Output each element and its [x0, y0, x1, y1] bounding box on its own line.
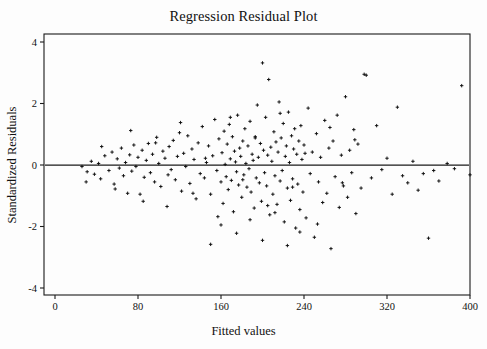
data-point [286, 244, 289, 247]
data-point [132, 143, 135, 146]
data-point [272, 130, 275, 133]
data-point [274, 140, 277, 143]
data-point [453, 167, 456, 170]
data-point [110, 150, 113, 153]
data-point [294, 226, 297, 229]
data-point [406, 181, 409, 184]
data-point [242, 173, 245, 176]
data-point [136, 156, 139, 159]
data-point [338, 206, 341, 209]
data-point [422, 172, 425, 175]
data-point [300, 158, 303, 161]
data-point [240, 196, 243, 199]
data-point [390, 193, 393, 196]
data-point [325, 192, 328, 195]
data-point [93, 173, 96, 176]
data-point [201, 125, 204, 128]
data-point [336, 113, 339, 116]
y-tick-label: -4 [28, 283, 37, 294]
x-axis-label: Fitted values [211, 324, 275, 338]
data-point [124, 161, 127, 164]
data-point [356, 142, 359, 145]
data-point [311, 150, 314, 153]
data-point [359, 186, 362, 189]
data-point [180, 189, 183, 192]
x-tick-label: 320 [379, 301, 395, 312]
data-point [275, 203, 278, 206]
data-point [141, 200, 144, 203]
data-point [299, 124, 302, 127]
data-point [120, 146, 123, 149]
data-point [309, 172, 312, 175]
data-point [301, 190, 304, 193]
data-point [401, 174, 404, 177]
data-point [103, 154, 106, 157]
data-point [411, 160, 414, 163]
data-point [321, 201, 324, 204]
data-point [143, 176, 146, 179]
data-point [298, 208, 301, 211]
data-point [228, 123, 231, 126]
data-point [155, 136, 158, 139]
data-point [323, 119, 326, 122]
data-point [287, 110, 290, 113]
data-point [128, 153, 131, 156]
data-point [145, 159, 148, 162]
data-point [176, 155, 179, 158]
data-point [352, 128, 355, 131]
data-point [262, 149, 265, 152]
data-point [350, 171, 353, 174]
data-point [170, 168, 173, 171]
data-point [344, 95, 347, 98]
data-point [221, 202, 224, 205]
data-point [232, 210, 235, 213]
data-point [188, 182, 191, 185]
data-point [107, 169, 110, 172]
data-point [219, 180, 222, 183]
data-point [245, 185, 248, 188]
data-point [278, 112, 281, 115]
data-point [264, 116, 267, 119]
data-point [273, 211, 276, 214]
data-point [250, 153, 253, 156]
data-point [199, 172, 202, 175]
data-point [100, 145, 103, 148]
data-point [140, 149, 143, 152]
data-point [216, 215, 219, 218]
data-point [213, 118, 216, 121]
data-point [241, 139, 244, 142]
data-point [237, 183, 240, 186]
data-point [205, 161, 208, 164]
data-point [257, 156, 260, 159]
data-point [266, 204, 269, 207]
data-point [288, 161, 291, 164]
x-tick-label: 0 [52, 301, 57, 312]
data-point [167, 145, 170, 148]
x-tick-label: 80 [133, 301, 144, 312]
y-axis-label: Standardized Residuals [5, 106, 19, 223]
data-point [224, 175, 227, 178]
data-point [248, 120, 251, 123]
y-tick-label: -2 [28, 221, 37, 232]
data-point [234, 160, 237, 163]
data-point [317, 180, 320, 183]
data-point [126, 192, 129, 195]
data-point [190, 147, 193, 150]
data-point [153, 180, 156, 183]
data-point [149, 171, 152, 174]
data-point [161, 149, 164, 152]
data-point [284, 155, 287, 158]
data-point [291, 185, 294, 188]
data-point [122, 174, 125, 177]
data-point [211, 154, 214, 157]
data-point [256, 103, 259, 106]
data-point [319, 156, 322, 159]
data-point [251, 159, 254, 162]
data-point [194, 197, 197, 200]
data-point [286, 186, 289, 189]
data-point [380, 168, 383, 171]
data-point [276, 150, 279, 153]
data-point [235, 170, 238, 173]
data-point [217, 137, 220, 140]
data-point [437, 179, 440, 182]
